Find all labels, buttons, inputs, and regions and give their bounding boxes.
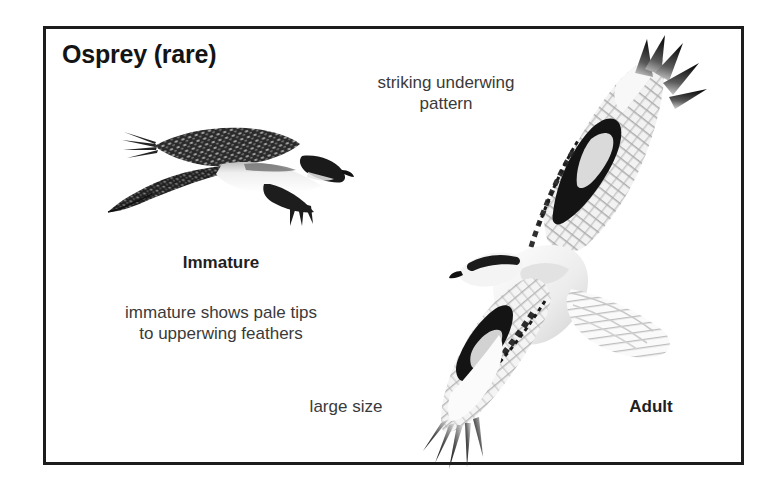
label-immature: Immature: [141, 253, 301, 274]
immature-near-wing: [108, 166, 222, 212]
immature-far-wing-fingers: [122, 132, 158, 158]
immature-osprey-illustration: [94, 122, 359, 242]
label-immature-note: immature shows pale tips to upperwing fe…: [91, 303, 351, 344]
label-large-size: large size: [276, 397, 416, 418]
adult-lower-wing: [423, 278, 551, 469]
immature-far-wing: [154, 128, 300, 167]
adult-upper-wing: [531, 35, 707, 252]
adult-tail: [567, 289, 670, 358]
adult-lower-primary-fingers: [423, 417, 483, 469]
page-title: Osprey (rare): [62, 39, 216, 70]
label-striking-underwing-pattern: striking underwing pattern: [326, 73, 566, 114]
label-adult: Adult: [591, 397, 711, 418]
illustration-plate: Osprey (rare): [43, 26, 744, 465]
